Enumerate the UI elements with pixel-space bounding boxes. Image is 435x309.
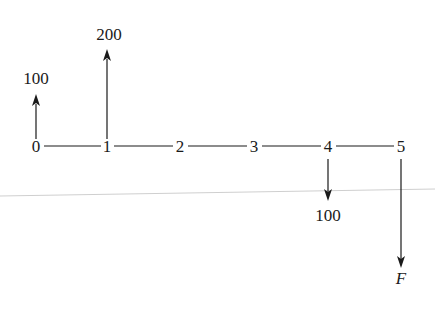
cash-flow-label-5: F <box>395 269 407 288</box>
guide-line <box>0 189 435 196</box>
period-label-3: 3 <box>250 137 259 156</box>
period-label-5: 5 <box>397 137 406 156</box>
cash-flow-diagram: 0 1 2 3 4 5 100 200 100 F <box>0 0 435 309</box>
cash-flow-arrow-5-down <box>397 159 405 268</box>
cash-flow-arrow-1-up <box>103 49 111 139</box>
cash-flow-label-0: 100 <box>23 69 49 88</box>
period-label-2: 2 <box>176 137 185 156</box>
period-label-0: 0 <box>32 137 41 156</box>
cash-flow-arrow-0-up <box>32 94 40 139</box>
cash-flow-label-1: 200 <box>96 25 122 44</box>
cash-flow-label-4: 100 <box>315 206 341 225</box>
period-label-4: 4 <box>324 137 333 156</box>
cash-flow-arrow-4-down <box>324 159 332 201</box>
period-label-1: 1 <box>103 137 112 156</box>
